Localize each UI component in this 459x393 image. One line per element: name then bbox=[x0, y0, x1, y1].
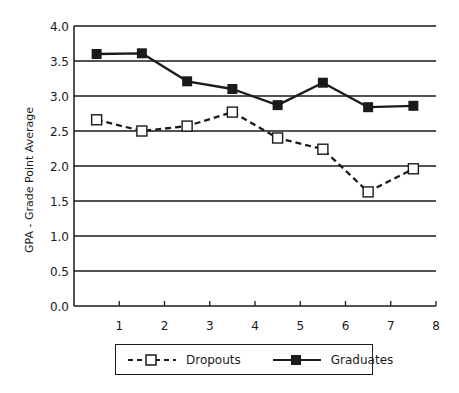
y-axis-title: GPA - Grade Point Average bbox=[23, 107, 36, 253]
open-square-marker bbox=[227, 107, 237, 117]
filled-square-marker bbox=[363, 102, 373, 112]
y-tick-label: 1.0 bbox=[50, 230, 69, 244]
filled-square-marker bbox=[182, 76, 192, 86]
x-tick-label: 7 bbox=[387, 319, 395, 333]
y-axis-ticks: 0.00.51.01.52.02.53.03.54.0 bbox=[50, 20, 69, 314]
open-square-marker bbox=[273, 133, 283, 143]
legend-label-dropouts: Dropouts bbox=[186, 353, 241, 367]
legend-item-dropouts: Dropouts bbox=[126, 353, 241, 367]
x-tick-label: 2 bbox=[161, 319, 169, 333]
legend: Dropouts Graduates bbox=[115, 344, 373, 375]
open-square-marker bbox=[318, 144, 328, 154]
filled-square-marker bbox=[408, 101, 418, 111]
y-tick-label: 0.5 bbox=[50, 265, 69, 279]
y-tick-label: 1.5 bbox=[50, 195, 69, 209]
x-tick-label: 3 bbox=[206, 319, 214, 333]
y-tick-label: 0.0 bbox=[50, 300, 69, 314]
y-tick-label: 2.0 bbox=[50, 160, 69, 174]
series-graduates bbox=[92, 48, 419, 112]
x-tick-label: 4 bbox=[251, 319, 259, 333]
open-square-marker bbox=[137, 126, 147, 136]
data-series bbox=[92, 48, 419, 197]
line-chart: 0.00.51.01.52.02.53.03.54.0 12345678 GPA… bbox=[0, 0, 459, 393]
y-tick-label: 3.0 bbox=[50, 90, 69, 104]
legend-label-graduates: Graduates bbox=[331, 353, 394, 367]
series-line bbox=[97, 112, 414, 192]
legend-item-graduates: Graduates bbox=[271, 353, 394, 367]
dashed-line-open-square-icon bbox=[126, 353, 178, 367]
x-tick-label: 1 bbox=[115, 319, 123, 333]
filled-square-marker bbox=[227, 84, 237, 94]
filled-square-marker bbox=[273, 100, 283, 110]
series-dropouts bbox=[92, 107, 419, 197]
open-square-marker bbox=[92, 115, 102, 125]
y-tick-label: 4.0 bbox=[50, 20, 69, 34]
open-square-marker bbox=[408, 164, 418, 174]
gridlines bbox=[74, 26, 436, 271]
x-tick-label: 5 bbox=[296, 319, 304, 333]
y-tick-label: 3.5 bbox=[50, 55, 69, 69]
filled-square-marker bbox=[92, 49, 102, 59]
open-square-marker bbox=[182, 121, 192, 131]
x-tick-label: 6 bbox=[342, 319, 350, 333]
x-tick-label: 8 bbox=[432, 319, 440, 333]
open-square-marker bbox=[363, 187, 373, 197]
solid-line-filled-square-icon bbox=[271, 353, 323, 367]
y-tick-label: 2.5 bbox=[50, 125, 69, 139]
filled-square-marker bbox=[137, 48, 147, 58]
filled-square-marker bbox=[318, 78, 328, 88]
